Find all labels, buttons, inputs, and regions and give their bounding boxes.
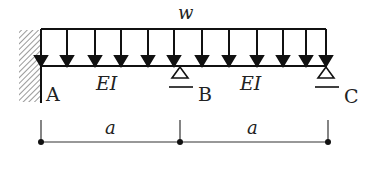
load-arrow-icon	[300, 29, 312, 66]
load-arrow-icon	[168, 29, 180, 66]
distributed-load-arrows	[35, 29, 332, 66]
load-arrow-icon	[277, 29, 289, 66]
dimension-label-ab: a	[105, 117, 116, 138]
load-arrow-icon	[320, 29, 332, 66]
dimension-line	[38, 120, 331, 145]
point-label-c: C	[344, 85, 359, 107]
load-arrow-icon	[89, 29, 101, 66]
load-arrow-icon	[61, 29, 73, 66]
load-label: w	[178, 2, 194, 23]
roller-support-c-icon	[315, 67, 339, 87]
load-arrow-icon	[115, 29, 127, 66]
point-label-a: A	[45, 83, 60, 105]
roller-support-b-icon	[169, 67, 193, 87]
load-arrow-icon	[223, 29, 235, 66]
dimension-label-bc: a	[247, 117, 258, 138]
beam-diagram: w A EI B EI C a a	[0, 0, 375, 175]
load-arrow-icon	[142, 29, 154, 66]
point-label-b: B	[198, 83, 212, 105]
stiffness-label-bc: EI	[239, 72, 262, 94]
load-arrow-icon	[251, 29, 263, 66]
fixed-support-wall	[19, 30, 41, 103]
stiffness-label-ab: EI	[95, 72, 118, 94]
load-arrow-icon	[196, 29, 208, 66]
